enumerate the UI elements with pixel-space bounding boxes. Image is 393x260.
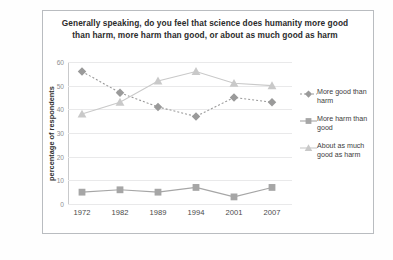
data-point-square [117,186,124,193]
chart-screenshot: Generally speaking, do you feel that sci… [0,0,393,260]
y-tick-label: 20 [57,153,64,160]
y-tick-label: 60 [57,59,64,66]
data-point-diamond [268,98,277,107]
y-tick-label: 0 [60,201,64,208]
y-axis-label: percentage of respondents [46,62,57,204]
data-point-square [155,189,162,196]
data-point-diamond [78,67,87,76]
data-point-diamond [230,93,239,102]
legend-label: More harm than good [317,115,370,133]
y-axis-label-text: percentage of respondents [47,86,56,181]
series-lines [68,62,292,204]
legend-label: About as much good as harm [317,142,370,160]
y-tick-label: 50 [57,82,64,89]
data-point-diamond [154,103,163,112]
y-tick-label: 30 [57,130,64,137]
x-tick-label: 1989 [150,208,167,217]
data-point-square [306,118,312,124]
x-tick-label: 2007 [264,208,281,217]
y-tick-label: 40 [57,106,64,113]
legend: More good than harmMore harm than goodAb… [300,88,370,169]
legend-marker-triangle [300,143,317,153]
legend-item: More good than harm [300,88,370,106]
gridline [68,204,292,205]
data-point-triangle [116,98,125,106]
x-tick-label: 1982 [112,208,129,217]
legend-marker-square [300,116,317,126]
data-point-diamond [116,89,125,98]
data-point-square [231,194,238,201]
legend-item: About as much good as harm [300,142,370,160]
x-tick-label: 1972 [74,208,91,217]
legend-marker-diamond [300,89,317,99]
series-line [82,187,272,196]
x-tick-label: 2001 [226,208,243,217]
chart-title: Generally speaking, do you feel that sci… [55,18,355,41]
legend-label: More good than harm [317,88,370,106]
data-point-square [193,184,200,191]
legend-item: More harm than good [300,115,370,133]
series-line [82,71,272,116]
data-point-square [269,184,276,191]
plot-area: 0102030405060 197219821989199420012007 [68,62,292,204]
series-line [82,71,272,114]
data-point-diamond [305,90,312,97]
data-point-triangle [192,67,201,75]
data-point-square [79,189,86,196]
y-tick-label: 10 [57,177,64,184]
data-point-diamond [192,112,201,121]
x-tick-label: 1994 [188,208,205,217]
